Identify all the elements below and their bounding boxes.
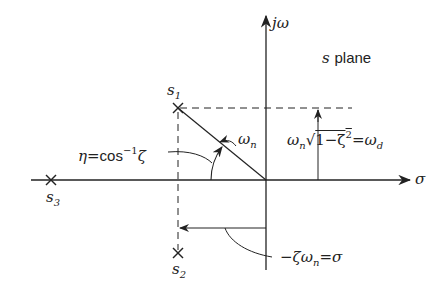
- real-part-label: −ζωn=σ: [280, 250, 342, 268]
- real-axis-label: σ: [415, 172, 425, 187]
- imaginary-axis-label: jω: [272, 16, 289, 31]
- s-plane-diagram: [0, 0, 447, 305]
- pole-s3-label: s3: [46, 190, 60, 208]
- damping-angle-label: η=cos−1ζ: [78, 146, 146, 164]
- omega-n-leader: [220, 141, 236, 146]
- plane-title: s plane: [322, 50, 371, 66]
- pole-s2-label: s2: [172, 262, 186, 280]
- angle-leader: [168, 152, 212, 163]
- damped-frequency-label: ωn√1−ζ2=ωd: [287, 130, 383, 151]
- pole-s1-label: s1: [167, 83, 181, 101]
- natural-frequency-label: ωn: [238, 132, 257, 150]
- sigma-leader: [225, 228, 272, 257]
- angle-arc: [211, 147, 222, 180]
